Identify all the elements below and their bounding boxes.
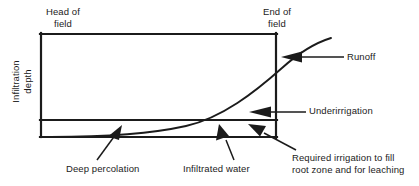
irrigation-diagram: Head offield End offield Runoff Underirr… xyxy=(0,0,419,186)
required-irrigation-leader-line xyxy=(264,133,296,150)
underirrigation-arrowhead-icon xyxy=(249,107,271,118)
runoff-label: Runoff xyxy=(347,51,413,63)
deep-percolation-label: Deep percolation xyxy=(66,163,164,175)
y-axis-label-line2: depth xyxy=(21,69,32,93)
infiltrated-water-leader-line xyxy=(226,140,234,160)
required-irrigation-label-line1: Required irrigation to fill xyxy=(292,152,395,163)
end-of-field-label-line2: field xyxy=(268,18,286,29)
y-axis-label-line1: Infiltration xyxy=(10,60,21,102)
infiltrated-water-label: Infiltrated water xyxy=(183,163,279,175)
head-of-field-label: Head offield xyxy=(26,6,100,29)
end-of-field-label: End offield xyxy=(240,6,314,29)
y-axis-label: Infiltrationdepth xyxy=(10,49,33,115)
infiltration-depth-curve xyxy=(41,38,331,137)
required-irrigation-label-line2: root zone and for leaching xyxy=(292,164,404,175)
required-irrigation-label: Required irrigation to fillroot zone and… xyxy=(292,152,418,175)
head-of-field-label-line2: field xyxy=(54,18,72,29)
end-of-field-label-line1: End of xyxy=(263,6,291,17)
underirrigation-label: Underirrigation xyxy=(309,105,413,117)
required-irrigation-arrowhead-icon xyxy=(248,124,266,137)
head-of-field-label-line1: Head of xyxy=(46,6,80,17)
